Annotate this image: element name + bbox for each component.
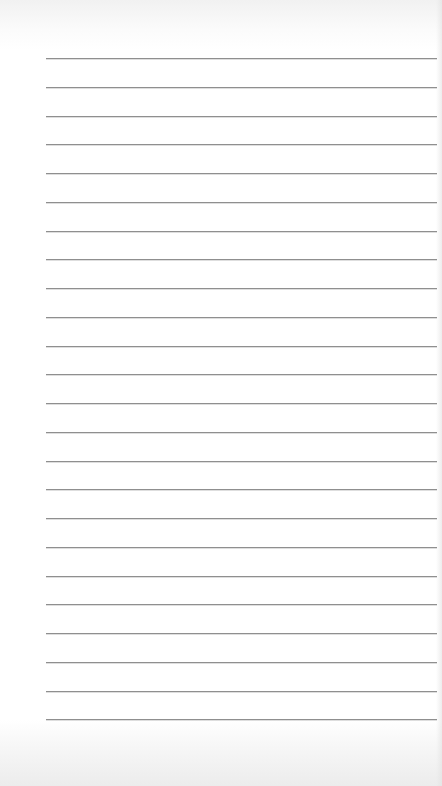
ruled-line: [46, 259, 437, 260]
ruled-line: [46, 58, 437, 59]
ruled-line: [46, 144, 437, 145]
ruled-line: [46, 719, 437, 720]
ruled-line: [46, 374, 437, 375]
ruled-line: [46, 576, 437, 577]
lined-paper: [0, 0, 442, 786]
ruled-line: [46, 116, 437, 117]
ruled-line: [46, 518, 437, 519]
ruled-line: [46, 432, 437, 433]
ruled-line: [46, 288, 437, 289]
ruled-line: [46, 87, 437, 88]
ruled-line: [46, 489, 437, 490]
ruled-line: [46, 691, 437, 692]
ruled-line: [46, 317, 437, 318]
ruled-line: [46, 403, 437, 404]
ruled-line: [46, 604, 437, 605]
ruled-line: [46, 231, 437, 232]
ruled-line: [46, 346, 437, 347]
ruled-line: [46, 662, 437, 663]
ruled-line: [46, 461, 437, 462]
ruled-line: [46, 633, 437, 634]
ruled-line: [46, 202, 437, 203]
ruled-line: [46, 173, 437, 174]
paper-edge-shadow: [436, 0, 442, 786]
ruled-line: [46, 547, 437, 548]
